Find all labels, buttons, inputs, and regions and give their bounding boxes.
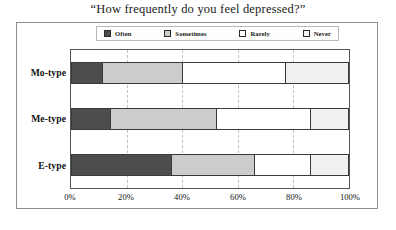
bar-segment-often[interactable] <box>71 154 171 176</box>
legend-swatch-never <box>303 30 310 37</box>
legend-item[interactable]: Sometimes <box>164 30 206 37</box>
bar-segment-never[interactable] <box>310 108 349 130</box>
legend-swatch-often <box>104 30 111 37</box>
x-axis-tick-label: 0% <box>64 192 75 202</box>
category-axis-labels: Mo-typeMe-typeE-type <box>16 49 66 189</box>
bar-segment-often[interactable] <box>71 108 110 130</box>
bar-segment-rarely[interactable] <box>182 62 285 84</box>
legend-swatch-rarely <box>239 30 246 37</box>
bar-segment-sometimes[interactable] <box>171 154 254 176</box>
category-label: Me-type <box>16 108 66 130</box>
bar-segment-never[interactable] <box>310 154 349 176</box>
bar-segment-rarely[interactable] <box>254 154 310 176</box>
bar-segment-never[interactable] <box>285 62 349 84</box>
legend-item[interactable]: Never <box>303 30 331 37</box>
x-axis-tick-label: 20% <box>118 192 134 202</box>
x-axis-labels: 0%20%40%60%80%100% <box>70 192 350 206</box>
legend-swatch-sometimes <box>164 30 171 37</box>
legend-item-label: Often <box>115 30 132 37</box>
legend-item[interactable]: Rarely <box>239 30 270 37</box>
bar-segment-sometimes[interactable] <box>110 108 216 130</box>
bar-row <box>71 62 349 84</box>
bar-segment-often[interactable] <box>71 62 102 84</box>
x-axis-tick-label: 40% <box>174 192 190 202</box>
legend-item-label: Never <box>314 30 331 37</box>
category-label: E-type <box>16 155 66 177</box>
legend-item-label: Rarely <box>250 30 270 37</box>
category-label: Mo-type <box>16 61 66 83</box>
x-axis-tick-label: 100% <box>340 192 360 202</box>
plot-area <box>70 49 350 189</box>
chart-figure: “How frequently do you feel depressed?” … <box>0 0 396 230</box>
chart-legend: OftenSometimesRarelyNever <box>96 26 339 41</box>
bar-row <box>71 108 349 130</box>
x-axis-tick-label: 80% <box>286 192 302 202</box>
legend-item[interactable]: Often <box>104 30 132 37</box>
legend-item-label: Sometimes <box>175 30 206 37</box>
x-axis-tick-label: 60% <box>230 192 246 202</box>
bar-segment-rarely[interactable] <box>216 108 311 130</box>
bar-segment-sometimes[interactable] <box>102 62 183 84</box>
bar-rows <box>71 50 349 188</box>
bar-row <box>71 154 349 176</box>
chart-title: “How frequently do you feel depressed?” <box>0 2 396 17</box>
